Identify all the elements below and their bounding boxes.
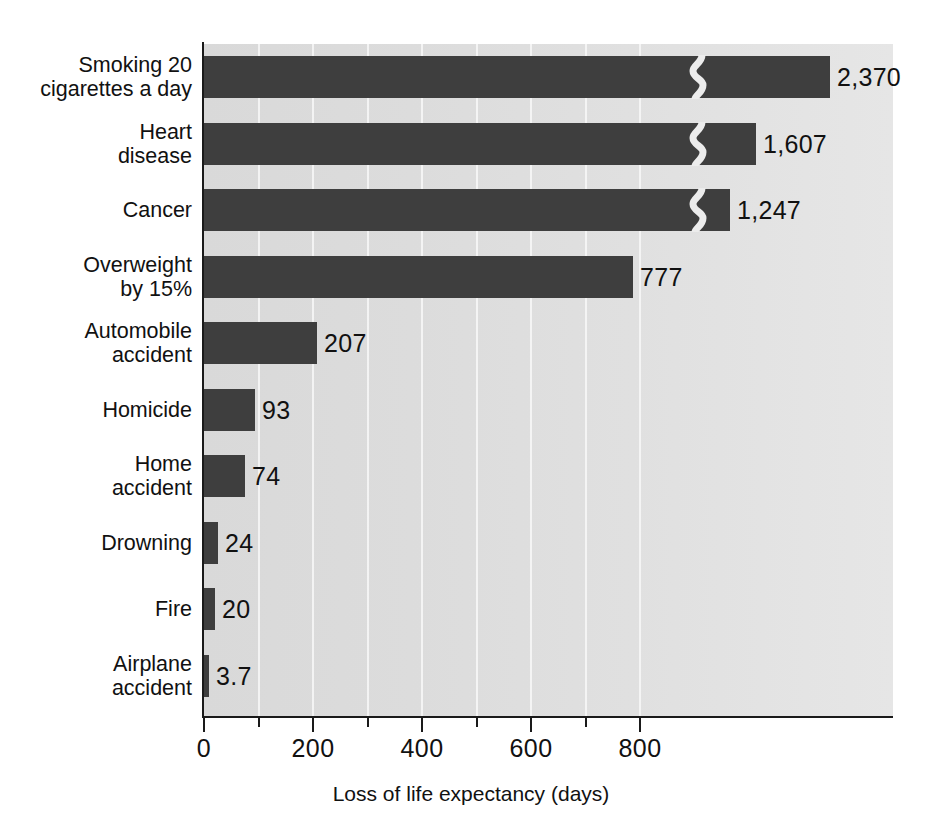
x-tick-0: [203, 718, 205, 732]
bar-value-label: 93: [262, 395, 290, 424]
bar-value-label: 777: [640, 262, 683, 291]
category-label: Home accident: [0, 452, 192, 500]
bar-value-label: 24: [225, 528, 253, 557]
x-axis-line: [202, 716, 893, 718]
bar: [204, 189, 730, 231]
category-label: Airplane accident: [0, 652, 192, 700]
bar: [204, 322, 317, 364]
bar-chart: Smoking 20 cigarettes a day2,370Heart di…: [0, 0, 942, 818]
x-tick-400: [421, 718, 423, 732]
category-label: Cancer: [0, 198, 192, 222]
x-tick-300: [367, 718, 369, 727]
x-tick-label-600: 600: [509, 734, 552, 763]
bar: [204, 455, 245, 497]
x-tick-label-0: 0: [197, 734, 211, 763]
bar-row: Smoking 20 cigarettes a day2,370: [0, 56, 942, 98]
bar: [204, 655, 209, 697]
category-label: Automobile accident: [0, 319, 192, 367]
x-tick-label-800: 800: [618, 734, 661, 763]
x-tick-100: [258, 718, 260, 727]
category-label: Heart disease: [0, 120, 192, 168]
x-tick-800: [639, 718, 641, 732]
x-tick-600: [530, 718, 532, 732]
category-label: Smoking 20 cigarettes a day: [0, 53, 192, 101]
bar-value-label: 74: [252, 462, 280, 491]
bar-row: Automobile accident207: [0, 322, 942, 364]
bar-row: Drowning24: [0, 522, 942, 564]
bar: [204, 522, 218, 564]
bar: [204, 256, 633, 298]
x-tick-500: [476, 718, 478, 727]
bar-value-label: 2,370: [837, 63, 901, 92]
bar-value-label: 1,247: [737, 196, 801, 225]
category-label: Fire: [0, 597, 192, 621]
bar-value-label: 20: [222, 595, 250, 624]
bar-value-label: 3.7: [216, 661, 252, 690]
axis-break-mark-icon: [688, 55, 710, 99]
category-label: Overweight by 15%: [0, 253, 192, 301]
bar-row: Fire20: [0, 588, 942, 630]
x-axis-title: Loss of life expectancy (days): [0, 782, 942, 806]
bar-row: Overweight by 15%777: [0, 256, 942, 298]
x-tick-label-400: 400: [400, 734, 443, 763]
bar-row: Airplane accident3.7: [0, 655, 942, 697]
bar-row: Home accident74: [0, 455, 942, 497]
bar-row: Homicide93: [0, 389, 942, 431]
axis-break-mark-icon: [688, 188, 710, 232]
x-tick-label-200: 200: [291, 734, 334, 763]
axis-break-mark-icon: [688, 122, 710, 166]
category-label: Drowning: [0, 531, 192, 555]
x-tick-200: [312, 718, 314, 732]
bar: [204, 123, 756, 165]
bar-value-label: 207: [324, 329, 367, 358]
x-tick-700: [585, 718, 587, 727]
bar-row: Cancer1,247: [0, 189, 942, 231]
bar-value-label: 1,607: [763, 129, 827, 158]
bar: [204, 56, 830, 98]
bar-row: Heart disease1,607: [0, 123, 942, 165]
category-label: Homicide: [0, 398, 192, 422]
bar: [204, 389, 255, 431]
bar: [204, 588, 215, 630]
